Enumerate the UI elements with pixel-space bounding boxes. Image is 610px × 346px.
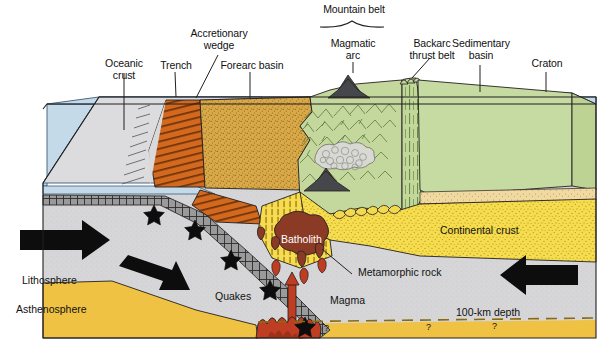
label-forearc-basin: Forearc basin <box>212 60 292 72</box>
label-mountain-belt: Mountain belt <box>312 4 396 16</box>
label-accretionary-wedge: Accretionary wedge <box>176 28 262 51</box>
craton-right-face <box>572 93 596 190</box>
label-asthenosphere: Asthenosphere <box>16 303 87 315</box>
label-batholith: Batholith <box>281 233 322 245</box>
cross-section-svg <box>0 0 610 346</box>
label-magma: Magma <box>330 294 365 306</box>
label-depth-marker: 100-km depth <box>456 306 520 318</box>
label-magmatic-arc: Magmatic arc <box>322 38 384 61</box>
mountain-belt-brace <box>320 21 384 27</box>
label-metamorphic-rock: Metamorphic rock <box>358 266 441 278</box>
label-continental-crust: Continental crust <box>440 224 519 236</box>
uncertainty-mark-1: ? <box>324 323 329 333</box>
label-quakes: Quakes <box>215 290 251 302</box>
label-trench: Trench <box>150 60 202 72</box>
label-craton: Craton <box>522 58 572 70</box>
label-sedimentary-basin: Sedimentary basin <box>445 38 517 61</box>
uncertainty-mark-3: ? <box>492 321 497 331</box>
label-lithosphere: Lithosphere <box>22 274 77 286</box>
forearc-basin-body <box>200 97 312 190</box>
diagram-canvas: Oceanic crust Trench Accretionary wedge … <box>0 0 610 346</box>
uncertainty-mark-2: ? <box>426 322 431 332</box>
